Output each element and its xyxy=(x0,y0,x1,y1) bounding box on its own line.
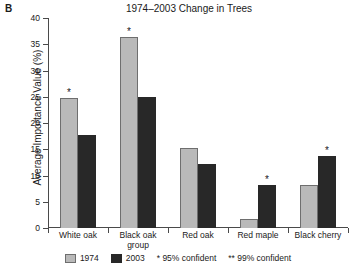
bar-group: * xyxy=(288,18,348,228)
significance-marker: * xyxy=(61,88,77,98)
x-tick xyxy=(348,228,349,233)
x-axis-label: White oak xyxy=(48,231,108,250)
bar xyxy=(198,164,216,228)
bar-group: * xyxy=(108,18,168,228)
y-tick-label: 15 xyxy=(31,144,40,154)
y-tick-label: 25 xyxy=(31,92,40,102)
bar xyxy=(300,185,318,228)
y-tick-label: 0 xyxy=(35,223,40,233)
figure-panel-b: B 1974–2003 Change in Trees Average Impo… xyxy=(0,0,356,271)
legend-swatch-1974 xyxy=(65,254,76,263)
x-axis-label: Red oak xyxy=(168,231,228,250)
x-axis-label: Black cherry xyxy=(288,231,348,250)
bar: * xyxy=(120,37,138,228)
bar xyxy=(78,135,96,228)
legend-item-2003: 2003 xyxy=(111,253,145,263)
bar-group xyxy=(168,18,228,228)
legend-swatch-2003 xyxy=(111,254,122,263)
y-tick-label: 40 xyxy=(31,13,40,23)
legend-label-1974: 1974 xyxy=(80,253,99,263)
x-axis-label: Red maple xyxy=(228,231,288,250)
x-axis-label: Black oakgroup xyxy=(108,231,168,250)
x-axis-labels: White oakBlack oakgroupRed oakRed mapleB… xyxy=(48,231,348,250)
bar xyxy=(240,219,258,228)
legend-label-2003: 2003 xyxy=(126,253,145,263)
y-tick-label: 35 xyxy=(31,39,40,49)
bar: * xyxy=(318,156,336,228)
y-tick-label: 30 xyxy=(31,66,40,76)
y-tick-label: 10 xyxy=(31,171,40,181)
bar: * xyxy=(258,185,276,228)
significance-marker: * xyxy=(121,27,137,37)
bar-group: * xyxy=(48,18,108,228)
legend-note-95: * 95% confident xyxy=(157,253,217,263)
bar-group: * xyxy=(228,18,288,228)
bar-groups: **** xyxy=(48,18,348,228)
significance-marker: * xyxy=(259,175,275,185)
y-tick-label: 20 xyxy=(31,118,40,128)
significance-marker: * xyxy=(319,146,335,156)
bar xyxy=(180,148,198,228)
plot-area: 0510152025303540 **** xyxy=(48,18,348,228)
y-tick-label: 5 xyxy=(35,197,40,207)
bar: * xyxy=(60,98,78,228)
chart-title: 1974–2003 Change in Trees xyxy=(0,3,356,14)
legend-item-1974: 1974 xyxy=(65,253,99,263)
bar xyxy=(138,97,156,228)
legend-note-99: ** 99% confident xyxy=(228,253,291,263)
chart-legend: 1974 2003 * 95% confident ** 99% confide… xyxy=(0,253,356,263)
